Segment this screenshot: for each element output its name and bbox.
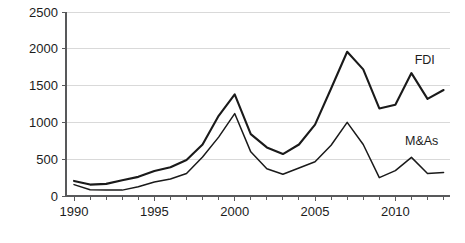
series-label-mas: M&As: [405, 134, 438, 148]
y-tick-label: 2500: [29, 5, 58, 20]
x-tick-label: 1995: [140, 204, 169, 219]
x-axis-tick-labels: 19901995200020052010: [60, 204, 410, 219]
y-tick-label: 2000: [29, 41, 58, 56]
series-line-fdi: [74, 52, 444, 185]
x-tick-label: 1990: [60, 204, 89, 219]
y-tick-label: 500: [36, 152, 58, 167]
y-axis-tick-labels: 05001000150020002500: [29, 5, 58, 204]
y-tick-label: 1000: [29, 115, 58, 130]
chart-container: 05001000150020002500 1990199520002005201…: [0, 0, 465, 243]
x-tick-label: 2000: [220, 204, 249, 219]
y-tick-label: 0: [51, 189, 58, 204]
line-chart: 05001000150020002500 1990199520002005201…: [0, 0, 465, 243]
x-tick-label: 2010: [381, 204, 410, 219]
y-tick-label: 1500: [29, 78, 58, 93]
series-label-fdi: FDI: [415, 53, 435, 67]
x-tick-label: 2005: [301, 204, 330, 219]
gridlines-group: [66, 12, 450, 196]
